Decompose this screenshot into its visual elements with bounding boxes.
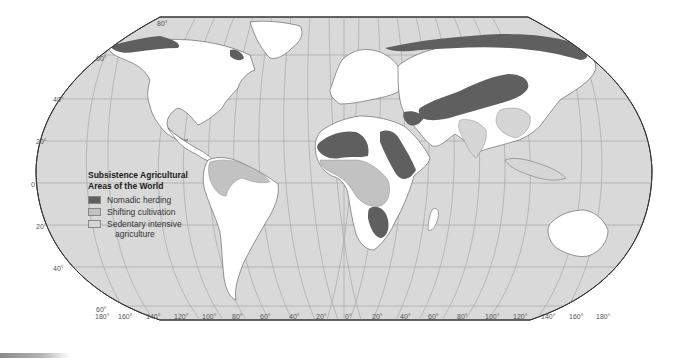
legend-item-nomadic-herding: Nomadic herding bbox=[88, 195, 228, 205]
legend-label: Sedentary intensive bbox=[107, 219, 182, 229]
lat-label-40n: 40° bbox=[53, 96, 64, 103]
swatch-shifting-cultivation bbox=[88, 208, 101, 216]
lat-label-20s: 20° bbox=[36, 223, 47, 230]
lon-label: 80° bbox=[232, 313, 243, 320]
lon-label: 160° bbox=[569, 313, 583, 320]
lon-label: 180° bbox=[95, 313, 109, 320]
legend-label: Shifting cultivation bbox=[107, 207, 176, 217]
legend-item-shifting-cultivation: Shifting cultivation bbox=[88, 207, 228, 217]
lat-label-40s: 40° bbox=[53, 265, 64, 272]
lon-label: 160° bbox=[118, 313, 132, 320]
swatch-sedentary-intensive bbox=[88, 220, 101, 228]
legend-item-sedentary-intensive: Sedentary intensive agriculture bbox=[88, 219, 228, 239]
lat-label-equator: 0° bbox=[31, 181, 38, 188]
lon-label: 40° bbox=[289, 313, 300, 320]
lon-label: 140° bbox=[146, 313, 160, 320]
legend-title-line1: Subsistence Agricultural bbox=[88, 170, 228, 181]
lon-label: 120° bbox=[513, 313, 527, 320]
new-zealand bbox=[628, 255, 643, 276]
lon-label: 40° bbox=[400, 313, 411, 320]
lon-label: 80° bbox=[457, 313, 468, 320]
lon-label: 60° bbox=[260, 313, 271, 320]
legend-label: Nomadic herding bbox=[107, 195, 171, 205]
decorative-bar bbox=[0, 353, 70, 358]
lon-label: 0° bbox=[345, 313, 352, 320]
lon-label: 60° bbox=[428, 313, 439, 320]
lon-label: 120° bbox=[174, 313, 188, 320]
lat-label-60n: 60° bbox=[96, 55, 107, 62]
lat-label-80n: 80° bbox=[157, 20, 168, 27]
lon-label: 100° bbox=[485, 313, 499, 320]
swatch-nomadic-herding bbox=[88, 196, 101, 204]
lon-label: 100° bbox=[202, 313, 216, 320]
lat-label-60s: 60° bbox=[96, 306, 107, 313]
legend-title-line2: Areas of the World bbox=[88, 181, 228, 192]
legend-label-line2: agriculture bbox=[107, 229, 182, 239]
lat-label-20n: 20° bbox=[36, 138, 47, 145]
lon-label: 180° bbox=[596, 313, 610, 320]
lon-label: 140° bbox=[541, 313, 555, 320]
lon-label: 20° bbox=[372, 313, 383, 320]
map-legend: Subsistence Agricultural Areas of the Wo… bbox=[88, 170, 228, 239]
lon-label: 20° bbox=[316, 313, 327, 320]
